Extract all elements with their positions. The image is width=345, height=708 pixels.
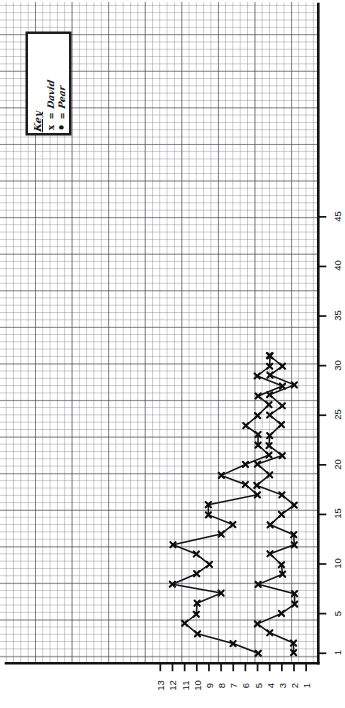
legend-box: Key x = David • = Pear: [26, 32, 71, 135]
legend-title: Key: [31, 35, 42, 132]
x-tick-label: 3: [276, 678, 287, 694]
x-tick-label: 6: [240, 678, 251, 694]
y-tick-label: 45: [332, 207, 343, 225]
legend-marker-x: x: [45, 123, 55, 131]
y-tick-label: 25: [332, 406, 343, 424]
x-tick-label: 12: [167, 678, 178, 694]
y-tick-label: 20: [332, 455, 343, 473]
data-point-marker: [279, 512, 284, 517]
x-tick-label: 2: [288, 678, 299, 694]
data-point-marker: [292, 503, 297, 508]
x-tick-label: 7: [228, 678, 239, 694]
x-tick-label: 9: [203, 678, 214, 694]
legend-content: Key x = David • = Pear: [30, 36, 68, 131]
x-tick-label: 13: [155, 678, 166, 694]
chart-page: Key x = David • = Pear 13121110987654321…: [0, 0, 345, 708]
x-tick-label: 8: [216, 678, 227, 694]
series-line-pear: [172, 356, 282, 653]
y-tick-label: 1: [332, 644, 343, 662]
legend-equals-0: =: [45, 112, 55, 119]
legend-equals-1: =: [56, 112, 66, 119]
legend-marker-dot: •: [57, 123, 65, 131]
data-point-marker: [267, 412, 272, 417]
y-tick-label: 15: [332, 505, 343, 523]
x-tick-label: 10: [191, 678, 202, 694]
y-tick-label: 30: [332, 356, 343, 374]
legend-label-pear: Pear: [56, 84, 66, 109]
y-tick-label: 40: [332, 257, 343, 275]
y-tick-label: 5: [332, 604, 343, 622]
legend-label-david: David: [45, 78, 55, 108]
data-point-marker: [182, 621, 187, 626]
legend-entry-david: x = David: [45, 36, 55, 131]
data-point-marker: [266, 402, 271, 407]
data-point-marker: [280, 364, 285, 369]
x-tick-label: 4: [264, 678, 275, 694]
data-point-marker: [207, 562, 212, 567]
y-tick-label: 10: [332, 555, 343, 573]
data-series-layer: [170, 353, 298, 656]
legend-entry-pear: • = Pear: [56, 36, 66, 131]
data-point-marker: [280, 403, 285, 408]
x-tick-label: 11: [179, 678, 190, 694]
y-tick-label: 35: [332, 307, 343, 325]
x-tick-label: 1: [301, 678, 312, 694]
data-point-marker: [279, 422, 284, 427]
data-point-marker: [243, 423, 248, 428]
data-point-marker: [255, 413, 260, 418]
x-tick-label: 5: [252, 678, 263, 694]
data-point-marker: [267, 472, 272, 477]
